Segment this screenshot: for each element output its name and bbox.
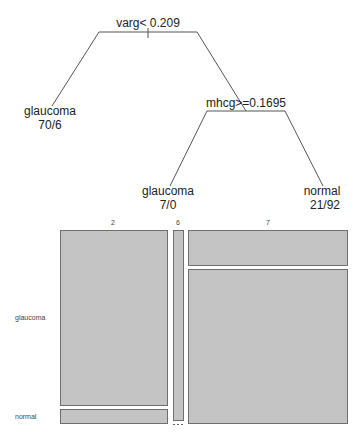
tile-6-glaucoma xyxy=(174,231,184,421)
second-left-branch xyxy=(170,111,207,186)
leaf-middle-counts: 7/0 xyxy=(160,198,177,212)
root-left-branch xyxy=(52,32,99,106)
column-label-2: 2 xyxy=(111,219,115,226)
row-label-glaucoma: glaucoma xyxy=(15,314,45,322)
leaf-left-counts: 70/6 xyxy=(38,118,62,132)
decision-tree: varg< 0.209 glaucoma 70/6 mhcg>=0.1695 g… xyxy=(24,16,340,212)
tile-2-normal xyxy=(61,410,168,424)
second-right-branch xyxy=(285,111,323,186)
classification-tree-figure: varg< 0.209 glaucoma 70/6 mhcg>=0.1695 g… xyxy=(0,0,364,445)
column-label-6: 6 xyxy=(176,219,180,226)
leaf-middle-class: glaucoma xyxy=(142,184,194,198)
tile-7-normal xyxy=(189,270,348,424)
column-label-7: 7 xyxy=(266,219,270,226)
second-split-label: mhcg>=0.1695 xyxy=(206,96,286,110)
leaf-right-counts: 21/92 xyxy=(310,198,340,212)
root-split-label: varg< 0.209 xyxy=(116,16,180,30)
leaf-left-class: glaucoma xyxy=(24,104,76,118)
tile-7-glaucoma xyxy=(189,231,348,266)
leaf-right-class: normal xyxy=(304,184,341,198)
row-label-normal: normal xyxy=(15,413,37,420)
mosaic-plot: 2 6 7 glaucoma normal xyxy=(15,219,348,425)
tile-2-glaucoma xyxy=(61,231,168,406)
